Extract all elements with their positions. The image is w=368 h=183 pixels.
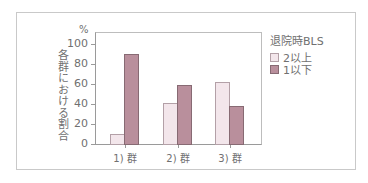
x-tick [125,145,126,148]
y-tick-label: 0 [58,138,88,150]
bar-2-or-more [215,82,230,145]
y-axis-unit: % [79,24,89,35]
bar-1-or-less [124,54,139,145]
y-tick [91,124,95,125]
y-tick-label: 100 [58,38,88,50]
x-tick [230,145,231,148]
x-tick-label: 3) 群 [210,150,250,165]
legend-title: 退院時BLS [270,32,324,48]
x-tick-label: 1) 群 [105,150,145,165]
y-tick [91,44,95,45]
bar-1-or-less [177,85,192,145]
y-tick-label: 40 [58,98,88,110]
bar-1-or-less [229,106,244,145]
legend-label: 1以下 [283,61,312,77]
y-tick-label: 20 [58,118,88,130]
legend-item-1-or-less: 1以下 [270,61,312,77]
x-tick [178,145,179,148]
bar-2-or-more [110,134,125,145]
y-tick-label: 80 [58,58,88,70]
y-tick-label: 60 [58,78,88,90]
x-tick-label: 2) 群 [158,150,198,165]
bar-2-or-more [163,103,178,145]
y-tick [91,64,95,65]
legend-swatch-dark [270,65,279,74]
y-tick [91,104,95,105]
y-tick [91,144,95,145]
y-tick [91,84,95,85]
